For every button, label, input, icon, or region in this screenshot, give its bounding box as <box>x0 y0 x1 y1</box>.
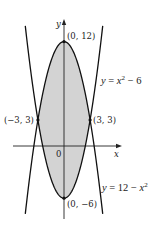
eq0-suffix: − 6 <box>125 75 141 86</box>
point-marker <box>89 118 92 121</box>
x-axis-arrow-icon <box>116 144 122 148</box>
point-marker <box>36 118 39 121</box>
eq0-prefix: = <box>106 75 117 86</box>
y-axis-label: y <box>55 19 61 29</box>
plot-area: (0, 12)(−3, 3)(3, 3)(0, −6) x y 0 y = x2… <box>0 0 157 228</box>
origin-label: 0 <box>56 149 61 159</box>
equation-label-x-squared-minus-6: y = x2 − 6 <box>100 74 141 86</box>
point-label: (0, 12) <box>67 31 95 41</box>
point-marker <box>62 40 65 43</box>
diagram: (0, 12)(−3, 3)(3, 3)(0, −6) x y 0 y = x2… <box>0 0 157 228</box>
x-axis-label: x <box>114 149 119 159</box>
point-label: (3, 3) <box>93 115 116 125</box>
eq1-sup: 2 <box>144 181 148 189</box>
point-label: (−3, 3) <box>4 115 34 125</box>
equation-label-12-minus-x-squared: y = 12 − x2 <box>101 181 148 193</box>
eq1-prefix: = 12 − <box>107 182 140 193</box>
point-label: (0, −6) <box>67 199 97 209</box>
point-marker <box>62 197 65 200</box>
y-axis-arrow-icon <box>62 19 66 25</box>
